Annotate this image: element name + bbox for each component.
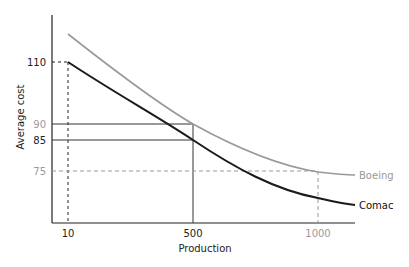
x-tick-10: 10 — [62, 228, 75, 239]
boeing-label: Boeing — [359, 170, 394, 181]
x-tick-500: 500 — [183, 228, 202, 239]
x-tick-1000: 1000 — [305, 228, 330, 239]
comac-label: Comac — [359, 200, 393, 211]
y-tick-85: 85 — [33, 135, 46, 146]
y-axis-label: Average cost — [15, 84, 26, 149]
x-axis-label: Production — [178, 243, 231, 254]
cost-chart: 110 90 85 75 10 500 1000 Production Aver… — [0, 0, 409, 267]
y-tick-110: 110 — [27, 57, 46, 68]
y-tick-90: 90 — [33, 119, 46, 130]
boeing-curve — [68, 34, 355, 175]
y-tick-75: 75 — [33, 166, 46, 177]
